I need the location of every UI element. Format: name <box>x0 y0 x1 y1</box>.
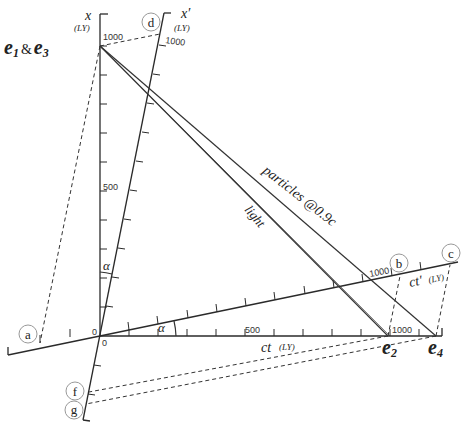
x-prime-axis-unit: (LY) <box>174 23 190 33</box>
ct-prime-axis-label: ct′ <box>408 273 425 290</box>
svg-text:g: g <box>71 402 78 417</box>
x-tick-1000: 1000 <box>103 32 123 42</box>
origin-label-ct: 0 <box>102 338 107 348</box>
alpha-arc-horizontal <box>174 321 176 336</box>
svg-text:b: b <box>396 256 403 271</box>
event-e1-e3-label: e1&e3 <box>4 36 49 60</box>
svg-text:e2: e2 <box>382 336 397 360</box>
svg-text:c: c <box>448 246 454 261</box>
svg-text:e1&e3: e1&e3 <box>4 36 49 60</box>
x-axis-label: x <box>84 8 92 23</box>
svg-text:d: d <box>148 15 155 30</box>
x-axis-unit: (LY) <box>74 23 90 33</box>
marker-a: a <box>19 325 37 343</box>
x-prime-axis-label: x′ <box>180 6 191 21</box>
x-prime-axis <box>83 13 171 421</box>
marker-d: d <box>142 13 160 31</box>
particle-worldline <box>100 46 436 336</box>
x-prime-tick-1000: 1000 <box>165 35 186 48</box>
alpha-label-vertical: α <box>103 258 111 273</box>
marker-c: c <box>442 244 460 262</box>
origin-label-x: 0 <box>92 327 97 337</box>
ct-axis-label: ct <box>261 340 272 355</box>
ct-axis <box>100 328 442 336</box>
ct-axis-unit: (LY) <box>279 342 295 352</box>
light-label: light <box>242 202 269 230</box>
marker-b: b <box>390 254 408 272</box>
ct-tick-500: 500 <box>245 325 260 335</box>
spacetime-diagram: d b c a f g x (LY) 1000 500 0 x′ (LY) 10… <box>0 0 465 442</box>
alpha-label-horizontal: α <box>158 320 166 335</box>
event-e2-label: e2 <box>382 336 397 360</box>
ct-prime-axis-unit: (LY) <box>427 272 444 285</box>
svg-text:a: a <box>25 327 31 342</box>
marker-g: g <box>65 401 83 419</box>
x-tick-500: 500 <box>103 182 118 192</box>
x-axis <box>100 14 108 336</box>
svg-text:e4: e4 <box>428 336 443 360</box>
ct-tick-1000: 1000 <box>392 325 412 335</box>
svg-text:f: f <box>73 384 78 399</box>
marker-f: f <box>66 382 84 400</box>
event-e4-label: e4 <box>428 336 443 360</box>
